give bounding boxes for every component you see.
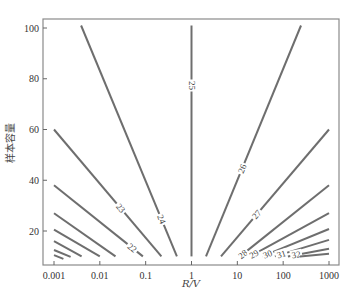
y-tick-label: 20 xyxy=(29,226,39,237)
contour-label: 32 xyxy=(291,249,302,260)
contour-label: 25 xyxy=(187,81,197,91)
contour-line-26 xyxy=(206,26,301,257)
contour-chart: 2223242526272829303132 0.0010.010.111010… xyxy=(0,0,355,306)
y-tick-label: 40 xyxy=(29,175,39,186)
contour-line-27 xyxy=(221,130,329,257)
y-axis-title: 样本容量 xyxy=(4,123,16,163)
contour-line xyxy=(54,255,63,259)
x-tick-label: 1000 xyxy=(319,270,339,281)
contour-lines: 2223242526272829303132 xyxy=(54,26,329,262)
x-tick-label: 0.1 xyxy=(139,270,152,281)
y-tick-label: 60 xyxy=(29,124,39,135)
x-tick-label: 100 xyxy=(276,270,291,281)
x-tick-label: 0.001 xyxy=(43,270,66,281)
x-tick-label: 10 xyxy=(232,270,242,281)
y-tick-label: 80 xyxy=(29,73,39,84)
contour-line-23 xyxy=(54,130,161,257)
y-tick-label: 100 xyxy=(24,23,39,34)
x-tick-label: 0.01 xyxy=(91,270,109,281)
x-axis-title: R/V xyxy=(181,278,202,289)
